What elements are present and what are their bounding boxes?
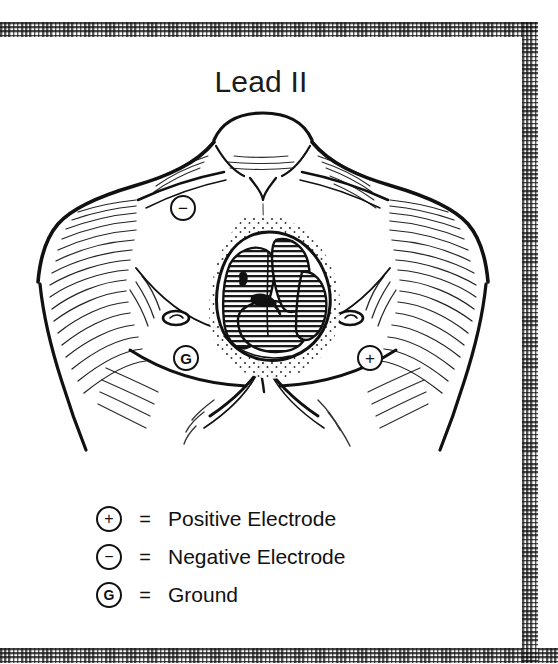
border-strip-right — [522, 22, 538, 663]
legend-row-negative: − = Negative Electrode — [96, 538, 496, 576]
figure-page: Lead II — [0, 0, 558, 664]
nipple-right — [163, 311, 189, 325]
legend-symbol-negative: − — [96, 544, 122, 570]
legend-label-positive: Positive Electrode — [168, 507, 336, 531]
positive-electrode-marker[interactable]: + — [357, 345, 383, 371]
torso-body — [38, 113, 488, 450]
legend-equals-negative: = — [122, 546, 168, 569]
border-strip-top — [0, 22, 538, 37]
nipple-left — [337, 311, 363, 325]
page-title: Lead II — [0, 65, 522, 99]
legend-label-ground: Ground — [168, 583, 238, 607]
clipped-header-text — [452, 0, 552, 7]
legend-label-negative: Negative Electrode — [168, 545, 345, 569]
legend-row-positive: + = Positive Electrode — [96, 500, 496, 538]
legend-equals-positive: = — [122, 508, 168, 531]
legend-symbol-positive: + — [96, 506, 122, 532]
heart — [217, 232, 331, 361]
negative-electrode-marker[interactable]: − — [170, 195, 196, 221]
legend-row-ground: G = Ground — [96, 576, 496, 614]
legend-equals-ground: = — [122, 584, 168, 607]
torso-illustration — [18, 100, 508, 480]
border-strip-bottom — [0, 648, 558, 663]
legend-symbol-ground: G — [96, 582, 122, 608]
legend: + = Positive Electrode − = Negative Elec… — [96, 500, 496, 614]
ground-electrode-marker[interactable]: G — [173, 345, 199, 371]
